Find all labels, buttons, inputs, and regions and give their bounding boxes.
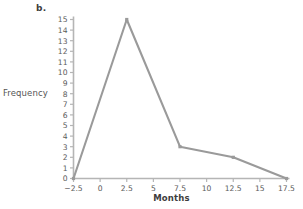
y-tick-label: 0 xyxy=(63,174,68,183)
y-tick-label: 12 xyxy=(58,47,68,56)
x-tick-label: −2.5 xyxy=(64,184,83,193)
x-tick-label: 15 xyxy=(255,184,265,193)
x-tick-label: 2.5 xyxy=(121,184,133,193)
y-tick-label: 6 xyxy=(63,111,68,120)
y-tick-label: 10 xyxy=(58,68,68,77)
y-tick-label: 5 xyxy=(63,121,68,130)
x-tick-label: 5 xyxy=(151,184,156,193)
data-point-marker[interactable] xyxy=(178,145,181,148)
data-series-line xyxy=(74,20,287,179)
line-chart-plot: 0123456789101112131415−2.502.557.51012.5… xyxy=(0,0,303,209)
y-tick-label: 11 xyxy=(58,58,68,67)
x-tick-label: 7.5 xyxy=(174,184,186,193)
y-tick-label: 3 xyxy=(63,143,68,152)
y-tick-label: 4 xyxy=(63,132,68,141)
y-tick-label: 8 xyxy=(63,90,68,99)
x-tick-label: 12.5 xyxy=(225,184,242,193)
y-tick-label: 15 xyxy=(58,15,68,24)
data-point-marker[interactable] xyxy=(232,156,235,159)
y-tick-label: 7 xyxy=(63,100,68,109)
x-tick-label: 17.5 xyxy=(278,184,295,193)
y-tick-label: 14 xyxy=(58,26,68,35)
data-point-marker[interactable] xyxy=(285,177,288,180)
y-tick-label: 9 xyxy=(63,79,68,88)
y-tick-label: 2 xyxy=(63,153,68,162)
data-point-marker[interactable] xyxy=(72,177,75,180)
x-tick-label: 10 xyxy=(202,184,212,193)
x-tick-label: 0 xyxy=(98,184,103,193)
y-tick-label: 13 xyxy=(58,37,68,46)
y-tick-label: 1 xyxy=(63,164,68,173)
figure-panel: b. Frequency Months 01234567891011121314… xyxy=(0,0,303,209)
data-point-marker[interactable] xyxy=(125,18,128,21)
